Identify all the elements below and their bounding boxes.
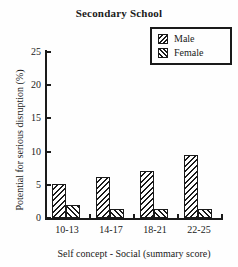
bar-male-10-13 <box>52 184 66 218</box>
bar-female-18-21 <box>154 209 168 218</box>
y-tick-label-5: 5 <box>17 179 41 191</box>
y-tick-label-25: 25 <box>17 46 41 58</box>
x-category-label-22-25: 22-25 <box>177 224 221 235</box>
y-tick-label-0: 0 <box>17 212 41 224</box>
bar-female-10-13 <box>66 205 80 218</box>
y-tick-25 <box>47 51 51 53</box>
x-tick-1 <box>89 214 91 218</box>
y-tick-label-15: 15 <box>17 112 41 124</box>
x-category-label-18-21: 18-21 <box>133 224 177 235</box>
y-tick-0 <box>47 217 51 219</box>
bar-male-22-25 <box>184 155 198 218</box>
legend-item-male: Male <box>158 34 230 44</box>
y-tick-20 <box>47 84 51 86</box>
y-tick-label-10: 10 <box>17 146 41 158</box>
y-tick-10 <box>47 151 51 153</box>
legend-male-label: Male <box>174 34 195 44</box>
y-tick-label-20: 20 <box>17 79 41 91</box>
x-category-label-14-17: 14-17 <box>89 224 133 235</box>
bar-male-14-17 <box>96 177 110 218</box>
x-category-label-10-13: 10-13 <box>45 224 89 235</box>
figure-secondary-school-chart: Secondary School Male Female Potential f… <box>0 0 238 267</box>
y-tick-5 <box>47 184 51 186</box>
bar-male-18-21 <box>140 171 154 218</box>
y-tick-15 <box>47 117 51 119</box>
x-tick-4 <box>221 214 223 218</box>
plot-area: 051015202510-1314-1718-2122-25 <box>45 50 223 220</box>
y-axis-line <box>45 50 47 220</box>
x-tick-0 <box>45 214 47 218</box>
bar-female-14-17 <box>110 209 124 218</box>
x-tick-2 <box>133 214 135 218</box>
bar-female-22-25 <box>198 209 212 218</box>
chart-title: Secondary School <box>0 7 238 19</box>
x-axis-line <box>45 218 223 220</box>
male-hatch-swatch-icon <box>158 34 168 44</box>
x-tick-3 <box>177 214 179 218</box>
x-axis-caption: Self concept - Social (summary score) <box>45 248 223 259</box>
